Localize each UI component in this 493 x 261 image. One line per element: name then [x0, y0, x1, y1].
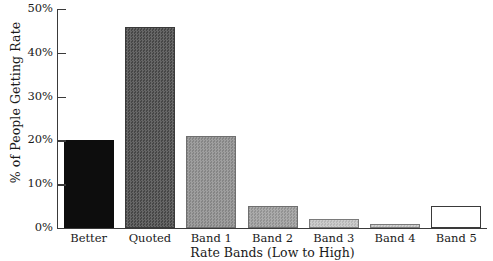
x-tick-label: Band 1 — [181, 231, 242, 245]
x-axis-line — [57, 228, 487, 229]
y-tick-mark — [58, 97, 66, 98]
bar-band-2[interactable] — [248, 206, 298, 228]
y-tick-mark — [58, 140, 66, 141]
bar-band-5[interactable] — [431, 206, 481, 228]
y-tick-mark — [58, 9, 66, 10]
y-tick-mark — [58, 53, 66, 54]
bar-band-3[interactable] — [309, 219, 359, 228]
y-tick-mark — [58, 228, 66, 229]
y-tick-mark — [58, 184, 66, 185]
bar-quoted[interactable] — [125, 27, 175, 228]
y-axis-tick-labels: 0%10%20%30%40%50% — [0, 0, 53, 261]
bar-chart: % of People Getting Rate 0%10%20%30%40%5… — [0, 0, 493, 261]
bar-band-4[interactable] — [370, 224, 420, 228]
y-tick-label: 50% — [5, 3, 53, 15]
plot-area — [58, 9, 487, 228]
bar-band-1[interactable] — [186, 136, 236, 228]
x-tick-label: Band 4 — [364, 231, 425, 245]
x-tick-label: Band 3 — [303, 231, 364, 245]
x-tick-label: Band 5 — [426, 231, 487, 245]
y-tick-label: 30% — [5, 91, 53, 103]
y-tick-label: 10% — [5, 178, 53, 190]
x-axis-title: Rate Bands (Low to High) — [58, 245, 487, 260]
y-tick-label: 40% — [5, 47, 53, 59]
x-tick-label: Better — [58, 231, 119, 245]
x-tick-label: Band 2 — [242, 231, 303, 245]
x-tick-label: Quoted — [119, 231, 180, 245]
bar-better[interactable] — [64, 140, 114, 228]
y-tick-label: 20% — [5, 134, 53, 146]
y-tick-label: 0% — [5, 222, 53, 234]
